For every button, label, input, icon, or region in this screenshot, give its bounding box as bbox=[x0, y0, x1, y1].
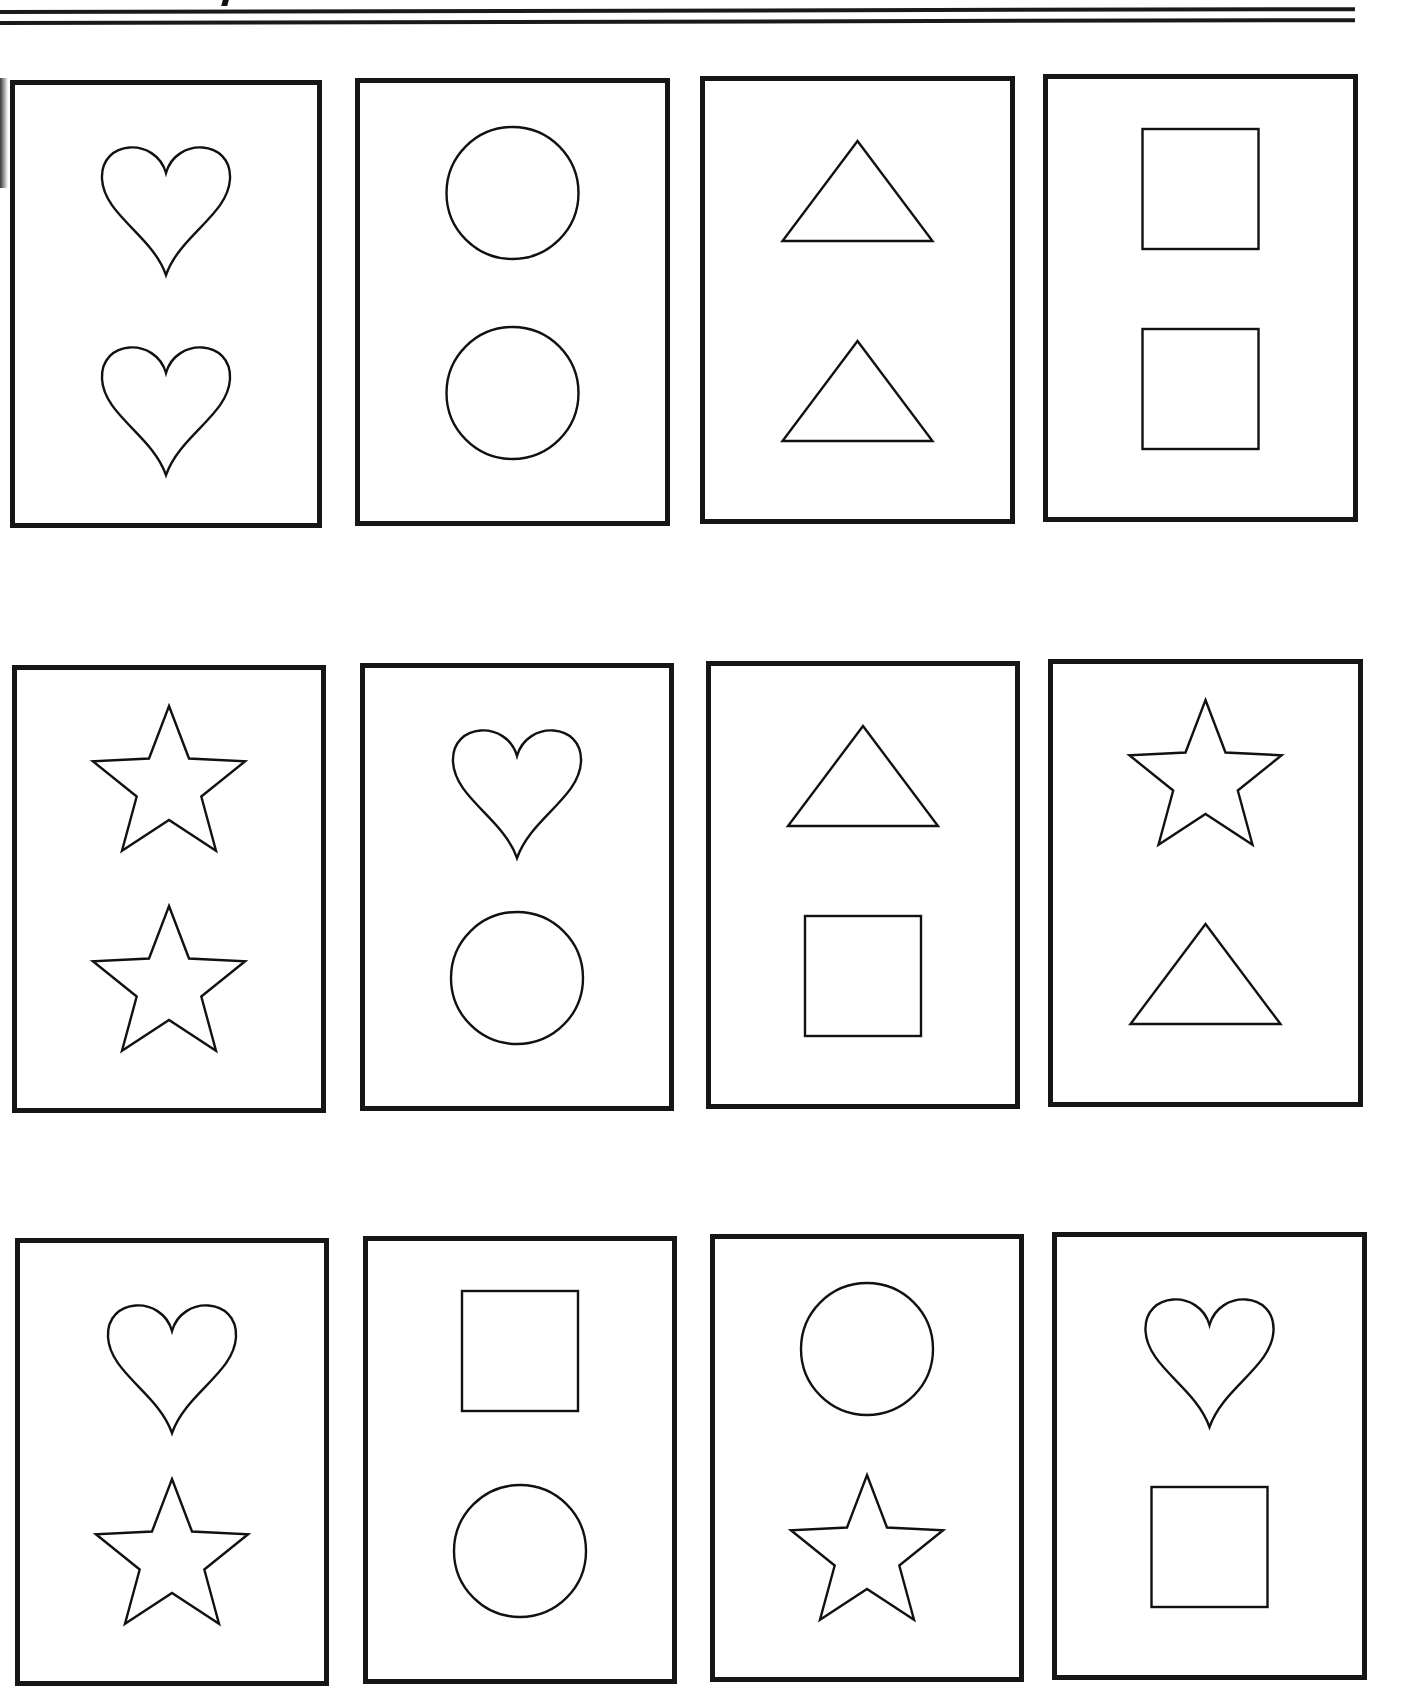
circle-icon bbox=[447, 327, 579, 459]
heart-icon bbox=[1145, 1299, 1273, 1427]
card-r3-c1 bbox=[15, 1238, 329, 1686]
card-r3-c2 bbox=[363, 1236, 677, 1684]
circle-icon bbox=[451, 912, 583, 1044]
triangle-icon bbox=[783, 141, 933, 241]
triangle-icon bbox=[788, 726, 938, 826]
header-rule-top bbox=[0, 7, 1355, 14]
card-r2-c1 bbox=[12, 665, 326, 1113]
heart-icon bbox=[102, 347, 230, 475]
card-r2-c4 bbox=[1048, 659, 1363, 1107]
card-shapes bbox=[705, 81, 1010, 519]
card-r2-c2 bbox=[360, 663, 674, 1111]
triangle-icon bbox=[783, 341, 933, 441]
circle-icon bbox=[454, 1485, 586, 1617]
card-shapes bbox=[368, 1241, 672, 1679]
title-text-fragment bbox=[221, 0, 229, 6]
card-shapes bbox=[360, 83, 665, 521]
card-shapes bbox=[365, 668, 669, 1106]
card-shapes bbox=[1053, 664, 1358, 1102]
card-r3-c3 bbox=[710, 1234, 1024, 1682]
card-r2-c3 bbox=[706, 661, 1020, 1109]
card-shapes bbox=[17, 670, 321, 1108]
card-r3-c4 bbox=[1052, 1232, 1367, 1680]
header-rule-bottom bbox=[0, 18, 1355, 25]
card-shapes bbox=[715, 1239, 1019, 1677]
card-r1-c3 bbox=[700, 76, 1015, 524]
heart-icon bbox=[108, 1305, 236, 1433]
heart-icon bbox=[453, 730, 581, 858]
square-icon bbox=[805, 916, 921, 1036]
heart-icon bbox=[102, 147, 230, 275]
card-r1-c4 bbox=[1043, 74, 1358, 522]
circle-icon bbox=[801, 1283, 933, 1415]
star-icon bbox=[93, 906, 245, 1051]
card-shapes bbox=[711, 666, 1015, 1104]
star-icon bbox=[93, 706, 245, 851]
triangle-icon bbox=[1131, 924, 1281, 1024]
star-icon bbox=[791, 1475, 943, 1620]
square-icon bbox=[1143, 129, 1259, 249]
square-icon bbox=[1143, 329, 1259, 449]
star-icon bbox=[96, 1479, 248, 1624]
scan-edge-shadow bbox=[0, 78, 8, 188]
card-r1-c2 bbox=[355, 78, 670, 526]
card-shapes bbox=[20, 1243, 324, 1681]
card-shapes bbox=[15, 85, 317, 523]
square-icon bbox=[1152, 1487, 1268, 1607]
card-r1-c1 bbox=[10, 80, 322, 528]
circle-icon bbox=[447, 127, 579, 259]
square-icon bbox=[462, 1291, 578, 1411]
card-shapes bbox=[1057, 1237, 1362, 1675]
star-icon bbox=[1129, 700, 1281, 845]
card-shapes bbox=[1048, 79, 1353, 517]
